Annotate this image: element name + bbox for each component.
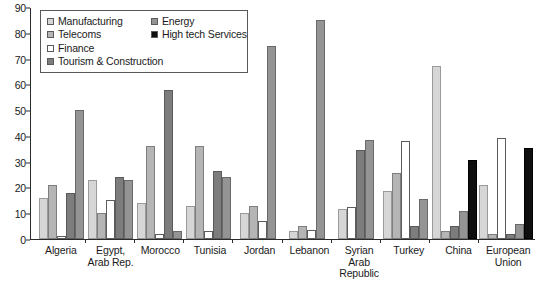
bar — [204, 231, 213, 239]
y-tick-label: 40 — [15, 131, 26, 143]
legend-swatch-icon — [151, 18, 158, 25]
x-axis-label: Morocco — [135, 242, 185, 292]
bar — [137, 203, 146, 239]
bar — [88, 180, 97, 239]
bar — [124, 180, 133, 239]
bar — [392, 173, 401, 239]
bar — [146, 146, 155, 239]
y-tick-label: 60 — [15, 79, 26, 91]
legend-label: Tourism & Construction — [58, 55, 163, 67]
bar-group — [430, 8, 479, 239]
bar — [506, 234, 515, 239]
bar-group — [479, 8, 533, 239]
legend-swatch-icon — [47, 31, 54, 38]
legend-swatch-icon — [151, 31, 158, 38]
x-axis-label: Tunisia — [185, 242, 235, 292]
bar-group — [381, 8, 430, 239]
bar — [524, 148, 533, 240]
bar — [432, 66, 441, 239]
bar — [222, 177, 231, 239]
bar — [450, 226, 459, 239]
x-axis-label: SyrianArabRepublic — [334, 242, 384, 292]
legend-swatch-icon — [47, 18, 54, 25]
y-axis: 0102030405060708090 — [0, 0, 30, 241]
bar — [267, 46, 276, 239]
bar-group — [332, 8, 381, 239]
bar — [240, 213, 249, 239]
legend-item[interactable]: Energy — [151, 15, 249, 27]
legend-item[interactable]: High tech Services — [151, 28, 249, 40]
legend-item[interactable]: Telecoms — [47, 28, 151, 40]
bar — [258, 221, 267, 239]
bar — [75, 110, 84, 239]
bar — [410, 226, 419, 239]
legend-label: High tech Services — [162, 28, 247, 40]
bar — [195, 146, 204, 239]
y-tick-label: 70 — [15, 54, 26, 66]
legend-label: Energy — [162, 15, 194, 27]
y-tick-label: 90 — [15, 2, 26, 14]
x-axis-label: Lebanon — [285, 242, 335, 292]
bar — [66, 193, 75, 239]
bar — [289, 231, 298, 239]
bar — [48, 185, 57, 239]
bar — [39, 198, 48, 239]
x-axis-label: EuropeanUnion — [483, 242, 533, 292]
legend-label: Telecoms — [58, 28, 101, 40]
legend-label: Manufacturing — [58, 15, 123, 27]
legend-grid: ManufacturingEnergyTelecomsHigh tech Ser… — [47, 15, 242, 68]
bar — [186, 206, 195, 240]
bar-chart: 0102030405060708090 AlgeriaEgypt,Arab Re… — [0, 0, 541, 293]
chart-legend: ManufacturingEnergyTelecomsHigh tech Ser… — [40, 10, 248, 73]
bar — [338, 209, 347, 239]
legend-swatch-icon — [47, 58, 54, 65]
bar — [173, 231, 182, 239]
bar — [441, 231, 450, 239]
bar — [115, 177, 124, 239]
bar — [155, 234, 164, 239]
x-axis-label: Algeria — [36, 242, 86, 292]
x-axis-label: Turkey — [384, 242, 434, 292]
bar — [298, 226, 307, 239]
bar — [365, 140, 374, 239]
legend-label: Finance — [58, 42, 94, 54]
bar — [488, 234, 497, 239]
bar — [347, 207, 356, 239]
bar — [419, 199, 428, 239]
legend-item[interactable]: Tourism & Construction — [47, 55, 249, 67]
bar — [249, 206, 258, 240]
bar — [515, 224, 524, 239]
bar-group — [283, 8, 332, 239]
bar — [316, 20, 325, 239]
bar — [213, 171, 222, 239]
bar — [459, 211, 468, 239]
bar — [356, 150, 365, 239]
bar — [479, 185, 488, 239]
x-axis-label: China — [434, 242, 484, 292]
y-tick-label: 80 — [15, 28, 26, 40]
bar — [307, 230, 316, 239]
bar — [497, 138, 506, 239]
bar — [468, 160, 477, 239]
legend-swatch-icon — [47, 45, 54, 52]
bar — [401, 141, 410, 239]
bar — [164, 90, 173, 240]
legend-item[interactable]: Manufacturing — [47, 15, 151, 27]
y-tick-label: 50 — [15, 105, 26, 117]
bar — [383, 191, 392, 239]
y-tick-label: 20 — [15, 182, 26, 194]
bar — [106, 200, 115, 239]
legend-item[interactable]: Finance — [47, 42, 151, 54]
y-tick-label: 30 — [15, 157, 26, 169]
x-axis-label: Egypt,Arab Rep. — [86, 242, 136, 292]
x-axis-labels: AlgeriaEgypt,Arab Rep.MoroccoTunisiaJord… — [30, 242, 535, 292]
bar — [57, 236, 66, 239]
bar — [97, 213, 106, 239]
x-axis-label: Jordan — [235, 242, 285, 292]
y-tick-label: 10 — [15, 208, 26, 220]
